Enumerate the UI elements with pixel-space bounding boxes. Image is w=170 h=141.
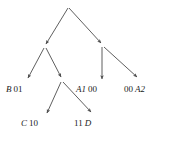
symbol-B: B xyxy=(6,84,14,94)
symbol-A1: A1 xyxy=(76,84,88,94)
code-leaf-c: 10 xyxy=(29,118,38,128)
tree-edge-n-mid-to-leaf-c xyxy=(47,82,61,113)
tree-diagram: B01 A100 00A2 C10 11D xyxy=(0,0,170,141)
leaf-label-a1: A100 xyxy=(76,85,97,94)
tree-edge-n-left-to-leaf-b xyxy=(28,48,44,78)
leaf-label-c: C10 xyxy=(21,119,38,128)
leaf-label-d: 11D xyxy=(74,119,91,128)
symbol-C: C xyxy=(21,118,29,128)
code-leaf-d: 11 xyxy=(74,118,85,128)
code-leaf-b: 01 xyxy=(14,84,23,94)
code-leaf-a1: 00 xyxy=(88,84,97,94)
tree-edge-n-left-to-n-mid xyxy=(46,48,61,77)
leaf-label-b: B01 xyxy=(6,85,23,94)
code-leaf-a2: 00 xyxy=(124,84,135,94)
tree-edge-n-right-to-leaf-a2 xyxy=(104,47,137,77)
symbol-D: D xyxy=(85,118,92,128)
tree-edge-root-to-n-right xyxy=(69,8,101,43)
symbol-A2: A2 xyxy=(135,84,145,94)
leaf-label-a2: 00A2 xyxy=(124,85,145,94)
tree-edge-root-to-n-left xyxy=(46,8,68,44)
